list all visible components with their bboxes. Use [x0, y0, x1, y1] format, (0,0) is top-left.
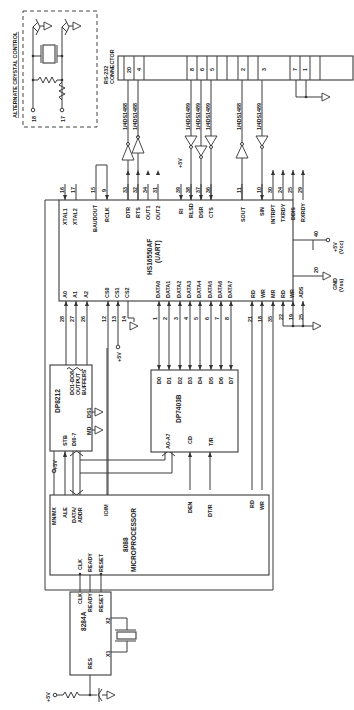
svg-text:MR: MR	[270, 290, 276, 298]
svg-text:D4: D4	[197, 377, 203, 384]
svg-text:RTS: RTS	[135, 207, 141, 218]
svg-text:A1: A1	[72, 291, 78, 298]
svg-text:X2: X2	[105, 617, 111, 624]
svg-text:IO/M: IO/M	[103, 504, 109, 516]
schematic-canvas: ALTERNATE CRYSTAL CONTROL 18 17 RS-232 C…	[0, 0, 354, 710]
svg-text:14: 14	[121, 316, 127, 322]
svg-text:WR: WR	[259, 501, 265, 510]
clockgen-vcc: +5V	[45, 692, 51, 702]
svg-text:D0: D0	[156, 377, 162, 384]
ground-icon	[107, 691, 115, 699]
svg-text:11: 11	[236, 187, 242, 193]
svg-text:3: 3	[173, 317, 179, 320]
svg-text:30: 30	[267, 187, 273, 193]
svg-text:5: 5	[193, 317, 199, 320]
transceiver-name: DP7403B	[175, 394, 182, 423]
rs232-pin: 5	[209, 68, 215, 71]
svg-text:A0-A7: A0-A7	[165, 433, 171, 449]
svg-text:X1: X1	[105, 650, 111, 657]
svg-text:29: 29	[297, 187, 303, 193]
svg-text:T/R: T/R	[208, 437, 214, 446]
svg-text:D6: D6	[218, 377, 224, 384]
svg-text:DDIS: DDIS	[290, 207, 296, 220]
svg-text:A2: A2	[83, 291, 89, 298]
svg-text:6: 6	[204, 317, 210, 320]
rs232-connector: RS-232 CONNECTOR 20 4 8 6 5 2 3 7 1	[103, 49, 353, 101]
alt-pin-18: 18	[31, 116, 37, 122]
svg-text:D3: D3	[187, 377, 193, 384]
svg-text:2: 2	[162, 317, 168, 320]
rs232-pin: 8	[189, 68, 195, 71]
svg-text:1/4DS1488: 1/4DS1488	[122, 103, 128, 130]
svg-text:ADS: ADS	[298, 286, 304, 298]
svg-text:36: 36	[205, 187, 211, 193]
svg-text:(Vcc): (Vcc)	[338, 241, 344, 254]
svg-text:WR: WR	[260, 289, 266, 298]
svg-text:MN/MX: MN/MX	[51, 507, 57, 525]
driver-vcc: +5V	[177, 158, 183, 168]
svg-text:WR: WR	[289, 289, 295, 298]
svg-text:TXRDY: TXRDY	[280, 203, 286, 222]
svg-text:31: 31	[152, 187, 158, 193]
svg-text:15: 15	[90, 187, 96, 193]
svg-text:CS2: CS2	[124, 288, 130, 299]
svg-text:D1: D1	[166, 377, 172, 384]
svg-text:SOUT: SOUT	[240, 206, 246, 222]
svg-text:(Vss): (Vss)	[338, 279, 344, 292]
rs232-pin: 6	[199, 68, 205, 71]
svg-text:33: 33	[122, 187, 128, 193]
svg-text:CLK: CLK	[77, 593, 83, 604]
svg-text:READY: READY	[87, 553, 93, 572]
svg-text:1/4DS1488: 1/4DS1488	[132, 103, 138, 130]
svg-text:DATA3: DATA3	[186, 281, 192, 298]
svg-text:CS1: CS1	[114, 288, 120, 299]
svg-text:34: 34	[142, 187, 148, 193]
svg-text:CLK: CLK	[77, 559, 83, 570]
svg-text:RXRDY: RXRDY	[300, 203, 306, 222]
svg-text:25: 25	[287, 187, 293, 193]
svg-text:1: 1	[152, 317, 158, 320]
svg-text:DT/R: DT/R	[207, 504, 213, 517]
rs232-pin: 3	[261, 68, 267, 71]
rs232-pin: 4	[136, 68, 142, 71]
svg-text:RLSD: RLSD	[188, 203, 194, 218]
svg-text:13: 13	[111, 316, 117, 322]
svg-text:DTR: DTR	[125, 207, 131, 218]
svg-text:1/4DS1489: 1/4DS1489	[195, 103, 201, 130]
svg-text:27: 27	[69, 316, 75, 322]
svg-text:DSR: DSR	[198, 207, 204, 218]
svg-text:DATA6: DATA6	[217, 281, 223, 298]
svg-text:RD: RD	[250, 290, 256, 298]
svg-text:12: 12	[101, 316, 107, 322]
svg-text:28: 28	[59, 316, 65, 322]
svg-text:RD: RD	[280, 290, 286, 298]
svg-text:READY: READY	[87, 593, 93, 612]
svg-text:SIN: SIN	[259, 207, 265, 216]
svg-text:38: 38	[185, 187, 191, 193]
svg-text:16: 16	[59, 187, 65, 193]
svg-text:4: 4	[183, 317, 189, 320]
line-drivers: 1/4DS1488 1/4DS1488 1/4DS1489 1/4DS1489 …	[122, 80, 268, 200]
latch-vcc: +5V	[52, 460, 58, 470]
svg-text:32: 32	[132, 187, 138, 193]
svg-text:CS0: CS0	[104, 288, 110, 299]
svg-text:24: 24	[277, 187, 283, 193]
cpu-sub: MICROPROCESSOR	[130, 508, 137, 572]
svg-text:RD: RD	[249, 500, 255, 508]
alt-pin-17: 17	[60, 116, 66, 122]
svg-text:OUT1: OUT1	[145, 206, 151, 220]
svg-text:DATA4: DATA4	[196, 281, 202, 298]
svg-text:DATA5: DATA5	[207, 281, 213, 298]
clockgen-name: 8284A	[80, 611, 87, 631]
connector-label: CONNECTOR	[109, 49, 115, 84]
svg-text:D5: D5	[208, 377, 214, 384]
uart-name: HS16550AF	[146, 239, 153, 275]
svg-text:RI: RI	[178, 208, 184, 214]
ground-icon	[323, 272, 331, 280]
svg-text:1/4DS1489: 1/4DS1489	[256, 103, 262, 130]
svg-text:40: 40	[313, 231, 319, 237]
svg-text:STB: STB	[62, 435, 68, 446]
svg-text:DATA0: DATA0	[155, 281, 161, 298]
svg-text:RES: RES	[87, 658, 93, 669]
svg-text:XTAL2: XTAL2	[72, 208, 78, 225]
